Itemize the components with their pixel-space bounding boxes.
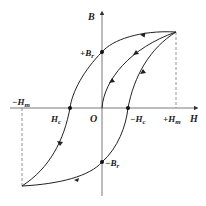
plus-br-point bbox=[100, 50, 104, 54]
b-axis-label: B bbox=[87, 11, 95, 22]
minus-hc-label: −Hc bbox=[130, 114, 146, 126]
loop-upper-branch bbox=[22, 32, 176, 186]
hc-label: Hc bbox=[50, 114, 61, 126]
plus-br-label: +Br bbox=[80, 48, 94, 60]
arrow-icon bbox=[74, 178, 79, 182]
minus-br-label: −Br bbox=[105, 158, 119, 170]
plus-hm-label: +Hm bbox=[163, 114, 181, 126]
minus-hm-label: −Hm bbox=[12, 97, 30, 109]
arrow-icon bbox=[140, 32, 146, 38]
hc-point bbox=[68, 106, 72, 110]
hysteresis-diagram: B H O +Br −Br −Hm Hc −Hc +Hm bbox=[0, 0, 206, 206]
arrow-icon bbox=[133, 50, 139, 55]
minus-hc-point bbox=[126, 106, 130, 110]
origin-label: O bbox=[90, 113, 97, 124]
minus-br-point bbox=[100, 160, 104, 164]
arrow-icon bbox=[109, 78, 115, 83]
h-axis-label: H bbox=[189, 113, 199, 124]
